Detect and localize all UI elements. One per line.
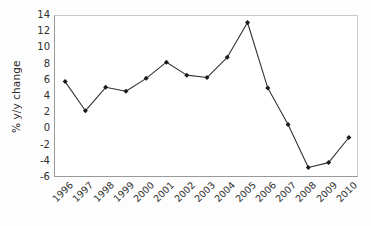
x-axis-tick-label: 1999 [112,180,136,204]
x-axis-tick-label: 1998 [92,180,116,204]
y-axis-tick-label: 8 [44,59,50,69]
line-chart: % y/y change 14121086420-2-4-6 199619971… [0,0,371,226]
x-axis-tick-label: 2009 [314,180,338,204]
data-point-marker [265,86,270,91]
x-axis-tick-label: 1996 [51,180,75,204]
x-axis-tick-label: 2006 [254,180,278,204]
x-axis-tick-label: 2003 [193,180,217,204]
x-axis-tick-label: 1997 [71,180,95,204]
y-axis-tick-label: 2 [44,107,50,117]
y-axis-tick-label: 0 [44,123,50,133]
data-point-marker [306,165,311,170]
x-axis-tick-label: 2007 [274,180,298,204]
y-axis-tick-label: 12 [37,26,50,36]
y-axis-tick-label: 6 [44,75,50,85]
y-axis-tick-label: -2 [40,140,50,150]
y-axis-tick-label: -4 [40,156,50,166]
y-axis-tick-label: -6 [40,172,50,182]
y-axis-tick-label: 4 [44,91,50,101]
x-axis-tick-label: 2000 [132,180,156,204]
y-axis-tick-label: 10 [37,42,50,52]
series-line-percent-yy-change [55,16,359,178]
x-axis-tick-labels: 1996199719981999200020012002200320042005… [54,177,358,226]
y-axis-title: % y/y change [8,38,24,156]
y-axis-tick-label: 14 [37,10,50,20]
x-axis-tick-label: 2005 [233,180,257,204]
x-axis-tick-label: 2004 [213,180,237,204]
data-point-marker [245,20,250,25]
x-axis-tick-label: 2001 [152,180,176,204]
plot-area [54,15,358,177]
y-axis-tick-labels: 14121086420-2-4-6 [24,15,50,177]
x-axis-tick-label: 2008 [294,180,318,204]
x-axis-tick-label: 2010 [335,180,359,204]
data-point-marker [286,122,291,127]
x-axis-tick-label: 2002 [173,180,197,204]
